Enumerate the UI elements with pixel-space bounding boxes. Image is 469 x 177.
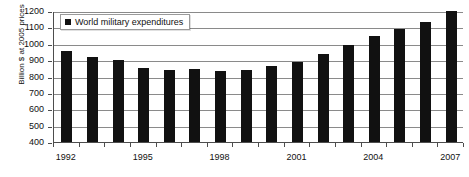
bar-slot bbox=[105, 12, 131, 142]
y-tick-label: 1100 bbox=[25, 23, 44, 32]
y-tick-label: 800 bbox=[29, 73, 44, 82]
y-tick-label: 900 bbox=[29, 56, 44, 65]
x-tick-mark bbox=[437, 143, 438, 147]
x-tick-mark bbox=[361, 143, 362, 147]
bar-slot bbox=[131, 12, 157, 142]
bar-slot bbox=[157, 12, 183, 142]
bar[interactable] bbox=[138, 68, 149, 142]
bar[interactable] bbox=[61, 51, 72, 142]
bar[interactable] bbox=[394, 29, 405, 142]
bar[interactable] bbox=[189, 69, 200, 142]
x-tick-mark bbox=[284, 143, 285, 147]
bar[interactable] bbox=[113, 60, 124, 142]
bar-slot bbox=[438, 12, 464, 142]
bar-slot bbox=[259, 12, 285, 142]
y-tick-mark bbox=[48, 110, 52, 111]
x-tick-mark bbox=[258, 143, 259, 147]
bar[interactable] bbox=[266, 66, 277, 142]
y-tick-label: 500 bbox=[29, 122, 44, 131]
bar-slot bbox=[182, 12, 208, 142]
bar[interactable] bbox=[343, 45, 354, 142]
y-tick-mark bbox=[48, 45, 52, 46]
bar-slot bbox=[362, 12, 388, 142]
plot-area bbox=[53, 12, 463, 143]
bar[interactable] bbox=[369, 36, 380, 142]
y-tick-label: 600 bbox=[29, 105, 44, 114]
x-tick-mark bbox=[181, 143, 182, 147]
bar-slot bbox=[54, 12, 80, 142]
x-tick-mark bbox=[156, 143, 157, 147]
x-tick-label: 2004 bbox=[353, 152, 393, 162]
legend-swatch-icon bbox=[65, 19, 71, 25]
bar[interactable] bbox=[420, 22, 431, 142]
x-tick-label: 1992 bbox=[46, 152, 86, 162]
bar-slot bbox=[413, 12, 439, 142]
x-axis-ticks bbox=[53, 143, 463, 148]
bar-slot bbox=[387, 12, 413, 142]
x-tick-mark bbox=[463, 143, 464, 147]
y-tick-mark bbox=[48, 143, 52, 144]
bar[interactable] bbox=[164, 70, 175, 142]
y-tick-mark bbox=[48, 78, 52, 79]
bar[interactable] bbox=[241, 70, 252, 142]
x-tick-label: 1998 bbox=[200, 152, 240, 162]
x-tick-mark bbox=[104, 143, 105, 147]
x-tick-label: 2001 bbox=[276, 152, 316, 162]
bar-slot bbox=[310, 12, 336, 142]
x-tick-mark bbox=[335, 143, 336, 147]
x-tick-mark bbox=[232, 143, 233, 147]
bar[interactable] bbox=[318, 54, 329, 142]
y-tick-label: 700 bbox=[29, 89, 44, 98]
x-tick-mark bbox=[207, 143, 208, 147]
y-tick-label: 1200 bbox=[24, 7, 44, 16]
y-tick-label: 1000 bbox=[24, 40, 44, 49]
chart-legend: World military expenditures bbox=[60, 14, 190, 30]
bar-slot bbox=[233, 12, 259, 142]
bar-series bbox=[54, 12, 463, 142]
bar[interactable] bbox=[292, 62, 303, 142]
x-tick-mark bbox=[130, 143, 131, 147]
x-tick-mark bbox=[386, 143, 387, 147]
y-tick-mark bbox=[48, 61, 52, 62]
x-tick-mark bbox=[79, 143, 80, 147]
bar-slot bbox=[80, 12, 106, 142]
bar[interactable] bbox=[215, 71, 226, 142]
x-tick-mark bbox=[309, 143, 310, 147]
legend-label: World military expenditures bbox=[75, 17, 183, 27]
x-tick-label: 2007 bbox=[430, 152, 469, 162]
bar[interactable] bbox=[87, 57, 98, 142]
bar-slot bbox=[208, 12, 234, 142]
y-tick-mark bbox=[48, 28, 52, 29]
chart-container: Billion $ at 2005 prices 400500600700800… bbox=[0, 0, 469, 177]
bar-slot bbox=[285, 12, 311, 142]
y-axis-labels: 400500600700800900100011001200 bbox=[0, 0, 53, 177]
x-tick-mark bbox=[53, 143, 54, 147]
bar[interactable] bbox=[446, 11, 457, 142]
bar-slot bbox=[336, 12, 362, 142]
x-tick-label: 1995 bbox=[123, 152, 163, 162]
x-tick-mark bbox=[412, 143, 413, 147]
y-tick-mark bbox=[48, 94, 52, 95]
y-tick-label: 400 bbox=[29, 138, 44, 147]
y-tick-mark bbox=[48, 12, 52, 13]
x-axis-labels: 199219951998200120042007 bbox=[0, 152, 469, 166]
y-tick-mark bbox=[48, 127, 52, 128]
